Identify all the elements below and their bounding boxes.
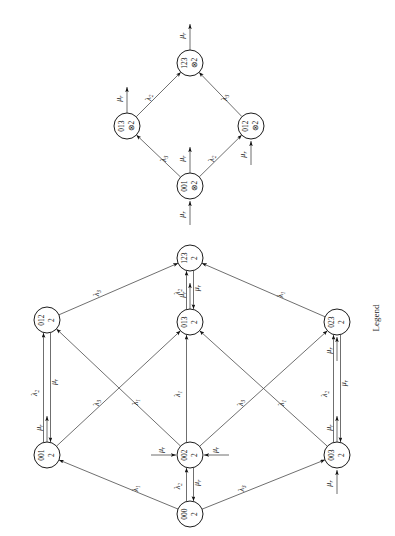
svg-text:λ3: λ3 bbox=[220, 94, 230, 101]
state-node-123[interactable]: 123⊗2 bbox=[177, 50, 203, 76]
svg-text:μr: μr bbox=[177, 211, 187, 219]
external-arrow-label-l003-out: μr bbox=[324, 424, 334, 432]
node-count-label: ⊗2 bbox=[251, 120, 260, 131]
edge-u013-to-u123 bbox=[136, 72, 181, 117]
state-node-001[interactable]: 001⊗2 bbox=[177, 173, 203, 199]
svg-text:λ2: λ2 bbox=[31, 390, 41, 397]
edge-l012-to-l123 bbox=[59, 263, 178, 315]
svg-text:λ1: λ1 bbox=[277, 400, 287, 407]
external-arrow-label-u013-out: μr bbox=[114, 95, 124, 103]
external-arrow-label-l002-in-left: μr bbox=[156, 446, 166, 454]
edge-label-l003-l023: λ2 bbox=[321, 390, 331, 397]
node-state-label: 001 bbox=[37, 449, 46, 461]
svg-text:μr: μr bbox=[324, 480, 334, 488]
node-count-label: 2 bbox=[337, 453, 346, 457]
node-state-label: 123 bbox=[180, 57, 189, 69]
state-node-023[interactable]: 0232 bbox=[324, 309, 350, 335]
state-node-001[interactable]: 0012 bbox=[34, 442, 60, 468]
edge-label-u013-u123: λ2 bbox=[144, 94, 154, 101]
node-count-label: ⊗2 bbox=[127, 120, 136, 131]
svg-text:λ1: λ1 bbox=[276, 291, 286, 298]
edge-label-l023-l123: λ1 bbox=[276, 291, 286, 298]
edge-label-u001-u013: λ3 bbox=[159, 155, 169, 162]
svg-text:μr: μr bbox=[193, 479, 203, 487]
edge-label-u001-u012: λ2 bbox=[207, 155, 217, 162]
node-count-label: ⊗2 bbox=[190, 57, 199, 68]
svg-text:λ3: λ3 bbox=[159, 155, 169, 162]
edge-l000-to-l003 bbox=[202, 460, 325, 509]
svg-text:μr: μr bbox=[324, 424, 334, 432]
external-arrow-label-u123-out: μr bbox=[177, 32, 187, 40]
state-node-012[interactable]: 012⊗2 bbox=[238, 113, 264, 139]
node-state-label: 000 bbox=[180, 508, 189, 520]
svg-text:μr: μr bbox=[340, 379, 350, 387]
external-arrow-label-u001-out: μr bbox=[177, 155, 187, 163]
edge-label-l003-l013: λ1 bbox=[277, 400, 287, 407]
svg-text:λ1: λ1 bbox=[131, 399, 141, 406]
edge-label-l000-l001: λ1 bbox=[131, 485, 141, 492]
state-node-000[interactable]: 0002 bbox=[177, 501, 203, 527]
svg-text:λ2: λ2 bbox=[207, 155, 217, 162]
edge-u001-to-u012 bbox=[199, 135, 241, 177]
edge-label-l001-l013: λ3 bbox=[92, 400, 102, 407]
svg-text:μr: μr bbox=[34, 424, 44, 432]
external-arrow-label-l002-in-right: μr bbox=[210, 446, 220, 454]
edge-label-l000-l002: λ2 bbox=[174, 483, 184, 490]
node-state-label: 023 bbox=[327, 316, 336, 328]
svg-text:λ3: λ3 bbox=[92, 290, 102, 297]
node-count-label: ⊗2 bbox=[190, 180, 199, 191]
svg-text:μr: μr bbox=[50, 378, 60, 386]
svg-text:λ2: λ2 bbox=[174, 483, 184, 490]
edge-u012-to-u123 bbox=[199, 72, 242, 116]
edge-u001-to-u013 bbox=[136, 135, 180, 177]
node-count-label: 2 bbox=[190, 320, 199, 324]
node-state-label: 002 bbox=[180, 449, 189, 461]
node-count-label: 2 bbox=[47, 453, 56, 457]
edge-label-l012-l001: μr bbox=[50, 378, 60, 386]
edge-l000-to-l001 bbox=[59, 460, 178, 509]
edge-label-l012-l123: λ3 bbox=[92, 290, 102, 297]
node-state-label: 013 bbox=[180, 316, 189, 328]
edge-label-l000-l003: λ3 bbox=[237, 485, 247, 492]
svg-text:λ3: λ3 bbox=[237, 485, 247, 492]
edge-label-l002-l023: λ3 bbox=[236, 400, 246, 407]
svg-text:μr: μr bbox=[324, 347, 334, 355]
svg-text:μr: μr bbox=[210, 446, 220, 454]
edge-label-l023-l003: μr bbox=[340, 379, 350, 387]
edge-l023-to-l123 bbox=[202, 263, 325, 317]
edge-label-l001-l012: λ2 bbox=[31, 390, 41, 397]
edge-label-u012-u123: λ3 bbox=[220, 94, 230, 101]
external-arrow-label-l001-out: μr bbox=[34, 424, 44, 432]
node-count-label: 2 bbox=[190, 453, 199, 457]
node-state-label: 001 bbox=[180, 180, 189, 192]
node-count-label: 2 bbox=[190, 512, 199, 516]
node-count-label: 2 bbox=[47, 318, 56, 322]
state-node-013[interactable]: 0132 bbox=[177, 309, 203, 335]
external-arrow-label-l003-in: μr bbox=[324, 480, 334, 488]
svg-text:λ3: λ3 bbox=[236, 400, 246, 407]
state-node-002[interactable]: 0022 bbox=[177, 442, 203, 468]
node-state-label: 012 bbox=[241, 120, 250, 132]
state-node-012[interactable]: 0122 bbox=[34, 307, 60, 333]
external-arrow-label-l023-in: μr bbox=[324, 347, 334, 355]
node-state-label: 013 bbox=[117, 120, 126, 132]
state-node-003[interactable]: 0032 bbox=[324, 442, 350, 468]
diagram-canvas: 123⊗2013⊗2012⊗2001⊗212320122013202320012… bbox=[0, 0, 395, 536]
node-count-label: 2 bbox=[190, 256, 199, 260]
state-node-123[interactable]: 1232 bbox=[177, 245, 203, 271]
svg-text:μr: μr bbox=[156, 446, 166, 454]
svg-text:μr: μr bbox=[238, 151, 248, 159]
edge-label-l002-l012: λ1 bbox=[131, 399, 141, 406]
external-arrow-label-u012-in: μr bbox=[238, 151, 248, 159]
state-node-013[interactable]: 013⊗2 bbox=[114, 113, 140, 139]
legend-label: Legend bbox=[371, 304, 381, 331]
svg-text:λ1: λ1 bbox=[131, 485, 141, 492]
node-count-label: 2 bbox=[337, 320, 346, 324]
state-transition-diagram: 123⊗2013⊗2012⊗2001⊗212320122013202320012… bbox=[0, 0, 395, 536]
svg-text:λ2: λ2 bbox=[144, 94, 154, 101]
svg-text:μr: μr bbox=[177, 155, 187, 163]
node-state-label: 003 bbox=[327, 449, 336, 461]
edge-label-l123-l013: μr bbox=[193, 284, 203, 292]
node-state-label: 123 bbox=[180, 252, 189, 264]
svg-text:μr: μr bbox=[193, 284, 203, 292]
